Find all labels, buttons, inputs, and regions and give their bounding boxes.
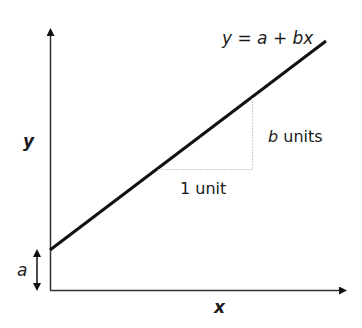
intercept-arrow-icon: [33, 249, 41, 291]
x-axis-label: x: [213, 297, 226, 317]
rise-label: b units: [268, 127, 323, 146]
y-axis-label: y: [23, 131, 35, 151]
intercept-label: a: [17, 260, 27, 280]
run-label: 1 unit: [180, 179, 226, 198]
rise-label-unit: units: [278, 127, 322, 146]
rise-label-var: b: [268, 127, 278, 146]
equation-label: y = a + bx: [221, 28, 314, 48]
linear-regression-diagram: y = a + bx y x a 1 unit b units: [0, 0, 362, 328]
